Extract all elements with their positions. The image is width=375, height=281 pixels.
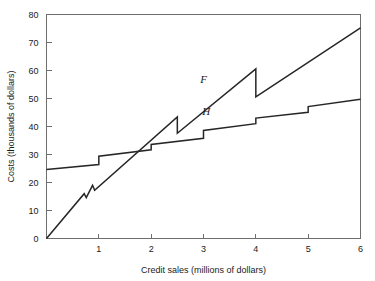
y-tick-label: 20 — [28, 178, 38, 188]
x-tick-label: 1 — [96, 244, 101, 254]
y-tick-label: 80 — [28, 10, 38, 20]
y-tick-label: 0 — [33, 234, 38, 244]
x-axis-ticks — [99, 234, 308, 239]
x-tick-label: 6 — [358, 244, 363, 254]
y-tick-label: 60 — [28, 66, 38, 76]
series-label-group: FH — [199, 73, 211, 117]
y-tick-label: 30 — [28, 150, 38, 160]
y-axis-tick-labels: 01020304050607080 — [28, 10, 38, 244]
y-tick-label: 10 — [28, 206, 38, 216]
x-axis-tick-labels: 123456 — [96, 244, 363, 254]
x-axis-title: Credit sales (millions of dollars) — [141, 265, 266, 275]
y-tick-label: 40 — [28, 122, 38, 132]
cost-volume-chart: 01020304050607080 123456 FH Costs (thous… — [0, 0, 375, 281]
y-tick-label: 50 — [28, 94, 38, 104]
x-tick-label: 2 — [149, 244, 154, 254]
x-tick-label: 3 — [201, 244, 206, 254]
plot-frame — [47, 15, 361, 239]
y-axis-title: Costs (thousands of dollars) — [6, 70, 16, 182]
data-series-group — [47, 28, 361, 239]
y-tick-label: 70 — [28, 38, 38, 48]
chart-container: 01020304050607080 123456 FH Costs (thous… — [0, 0, 375, 281]
x-tick-label: 4 — [253, 244, 258, 254]
x-tick-label: 5 — [306, 244, 311, 254]
y-axis-ticks — [47, 43, 52, 211]
series-label-h: H — [201, 105, 211, 117]
series-label-f: F — [199, 73, 207, 85]
